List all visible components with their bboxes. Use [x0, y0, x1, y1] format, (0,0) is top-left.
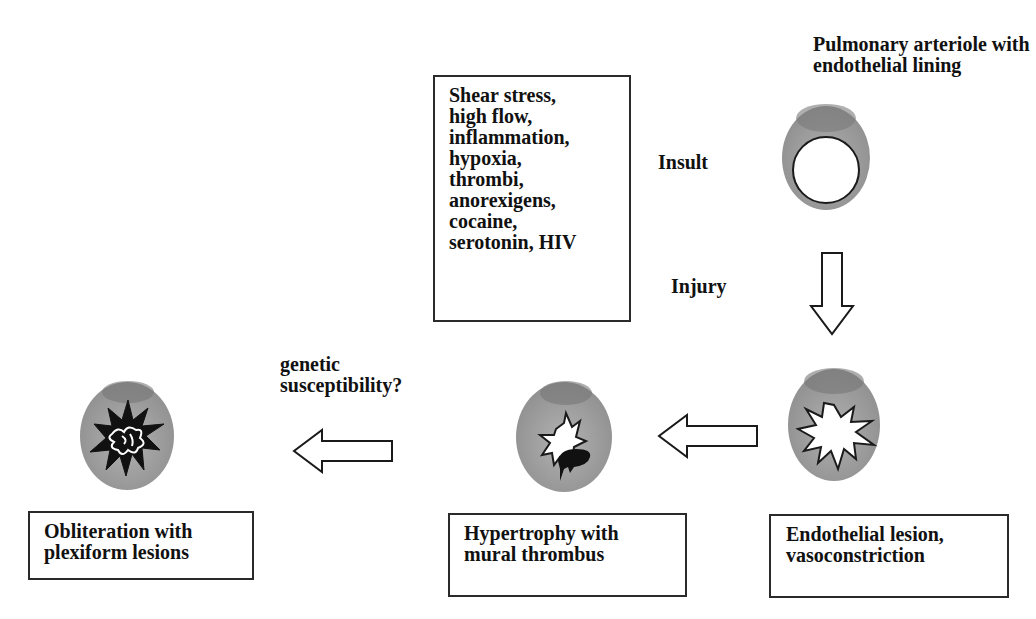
caption-hypertrophy-box: Hypertrophy with mural thrombus	[448, 513, 687, 597]
title-label: Pulmonary arteriole with endothelial lin…	[813, 34, 1030, 76]
arrow-left-icon	[292, 428, 394, 474]
arrow-down-icon	[809, 252, 855, 336]
plexiform-lesion-vessel-icon	[78, 378, 176, 492]
insult-factors-box: Shear stress, high flow, inflammation, h…	[433, 75, 631, 322]
caption-obliteration-text: Obliteration with plexiform lesions	[44, 521, 192, 563]
caption-endothelial-lesion-text: Endothelial lesion, vasoconstriction	[786, 524, 944, 566]
caption-hypertrophy-text: Hypertrophy with mural thrombus	[464, 523, 619, 565]
genetic-susceptibility-label: genetic susceptibility?	[280, 354, 402, 396]
caption-obliteration-box: Obliteration with plexiform lesions	[28, 511, 254, 580]
hypertrophy-thrombus-vessel-icon	[514, 377, 614, 493]
injury-label: Injury	[671, 276, 727, 297]
caption-endothelial-lesion-box: Endothelial lesion, vasoconstriction	[769, 514, 1009, 598]
normal-arteriole-icon	[780, 100, 872, 212]
insult-factors-text: Shear stress, high flow, inflammation, h…	[449, 85, 576, 253]
endothelial-lesion-vessel-icon	[786, 365, 882, 483]
arrow-left-icon	[657, 413, 759, 459]
insult-label: Insult	[658, 152, 708, 173]
